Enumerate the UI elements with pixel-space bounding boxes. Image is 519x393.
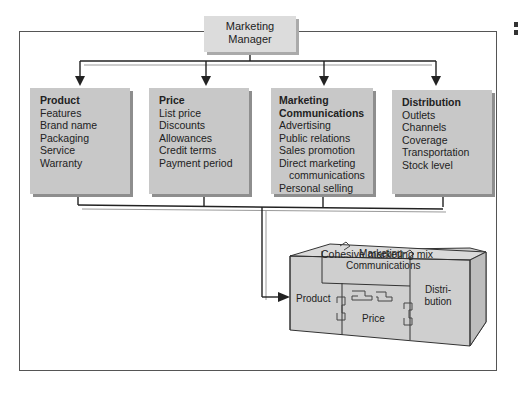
box-item: Public relations [279, 132, 373, 145]
box-title-line1: Marketing [279, 94, 373, 107]
product-box: Product Features Brand name Packaging Se… [30, 88, 130, 194]
cube-label-price: Price [362, 313, 385, 325]
box-item: Discounts [159, 119, 249, 132]
box-title: Price [159, 94, 249, 107]
cube-label-line2: Communications [346, 260, 416, 272]
cube-label-dist-line1: Distri- [418, 284, 458, 296]
marketing-manager-box: Marketing Manager [204, 16, 296, 52]
box-item: Channels [402, 121, 492, 134]
cube-label-product: Product [296, 293, 330, 305]
box-item: Personal selling [279, 182, 373, 195]
box-title: Distribution [402, 96, 492, 109]
box-item: Direct marketing [279, 157, 373, 170]
box-item: Stock level [402, 159, 492, 172]
box-item: Advertising [279, 119, 373, 132]
marketing-communications-box: Marketing Communications Advertising Pub… [271, 88, 373, 194]
cube-label-dist-line2: bution [418, 296, 458, 308]
box-item: Outlets [402, 109, 492, 122]
connector-lines [0, 0, 519, 393]
manager-line1: Marketing [204, 20, 296, 33]
distribution-box: Distribution Outlets Channels Coverage T… [392, 90, 492, 194]
box-item: Payment period [159, 157, 249, 170]
box-item: Coverage [402, 134, 492, 147]
box-item: Packaging [40, 132, 130, 145]
box-item: communications [279, 169, 373, 182]
box-item: List price [159, 107, 249, 120]
box-title: Product [40, 94, 130, 107]
cube-label-marketing-communications: Marketing Communications [346, 248, 416, 272]
box-item: Transportation [402, 146, 492, 159]
box-item: Credit terms [159, 144, 249, 157]
cube-label-line1: Marketing [346, 248, 416, 260]
cube-label-distribution: Distri- bution [418, 284, 458, 308]
box-item: Service [40, 144, 130, 157]
box-item: Allowances [159, 132, 249, 145]
box-item: Warranty [40, 157, 130, 170]
box-title-line2: Communications [279, 107, 373, 120]
manager-line2: Manager [204, 33, 296, 46]
box-item: Brand name [40, 119, 130, 132]
box-item: Sales promotion [279, 144, 373, 157]
price-box: Price List price Discounts Allowances Cr… [149, 88, 249, 194]
page-edge-marks [514, 22, 519, 42]
box-item: Features [40, 107, 130, 120]
